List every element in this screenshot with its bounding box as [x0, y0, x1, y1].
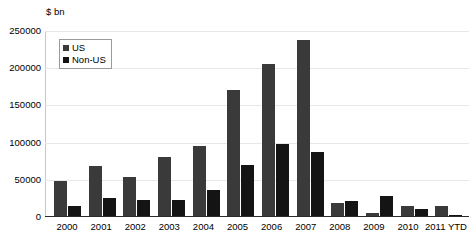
bar-non-us-2011-ytd — [449, 215, 462, 216]
x-axis-tick-label: 2010 — [391, 220, 425, 236]
bar-group — [327, 31, 362, 216]
bar-group — [223, 31, 258, 216]
bar-us-2008 — [331, 203, 344, 216]
x-axis-tick-label: 2004 — [186, 220, 220, 236]
bar-non-us-2009 — [380, 196, 393, 216]
x-axis-tick-label: 2000 — [50, 220, 84, 236]
x-axis-tick-label: 2007 — [289, 220, 323, 236]
bar-group — [119, 31, 154, 216]
bar-us-2004 — [193, 146, 206, 216]
y-axis-tick-label: 0 — [0, 212, 41, 222]
x-axis-tick-label: 2003 — [152, 220, 186, 236]
bar-group — [154, 31, 189, 216]
bar-group — [431, 31, 466, 216]
x-axis-tick-labels: 2000200120022003200420052006200720082009… — [46, 220, 470, 236]
bar-non-us-2004 — [207, 190, 220, 216]
legend-item-us: US — [63, 42, 106, 53]
bar-us-2002 — [123, 177, 136, 216]
bar-non-us-2008 — [345, 201, 358, 216]
bar-chart: $ bn 050000100000150000200000250000 2000… — [0, 0, 474, 244]
x-axis-tick-label: 2001 — [84, 220, 118, 236]
y-axis-unit-label: $ bn — [46, 6, 65, 17]
bar-group — [362, 31, 397, 216]
bar-us-2001 — [89, 166, 102, 216]
bar-group — [258, 31, 293, 216]
bar-us-2006 — [262, 64, 275, 216]
bar-us-2005 — [227, 90, 240, 216]
legend-label-non-us: Non-US — [72, 54, 106, 65]
x-axis-tick-label: 2006 — [255, 220, 289, 236]
x-axis-line — [45, 216, 469, 217]
bar-us-2011-ytd — [435, 206, 448, 216]
bar-group — [189, 31, 224, 216]
bar-non-us-2001 — [103, 198, 116, 216]
bar-group — [293, 31, 328, 216]
bar-us-2000 — [54, 181, 67, 216]
bar-group — [397, 31, 432, 216]
legend-swatch-us-icon — [63, 45, 69, 51]
x-axis-tick-label: 2009 — [357, 220, 391, 236]
x-axis-tick-label: 2005 — [220, 220, 254, 236]
bar-non-us-2007 — [311, 152, 324, 216]
x-axis-tick-label: 2008 — [323, 220, 357, 236]
chart-legend: US Non-US — [59, 39, 112, 69]
y-axis-tick-label: 50000 — [0, 175, 41, 185]
y-axis-tick-label: 150000 — [0, 100, 41, 110]
bar-non-us-2002 — [137, 200, 150, 216]
x-axis-tick-label: 2011 YTD — [425, 220, 467, 236]
x-axis-tick-label: 2002 — [118, 220, 152, 236]
bar-non-us-2010 — [415, 209, 428, 216]
bar-us-2007 — [297, 40, 310, 216]
legend-label-us: US — [72, 42, 85, 53]
bar-non-us-2005 — [241, 165, 254, 216]
bar-non-us-2000 — [68, 206, 81, 216]
legend-swatch-non-us-icon — [63, 57, 69, 63]
y-axis-tick-label: 200000 — [0, 63, 41, 73]
bar-non-us-2003 — [172, 200, 185, 216]
bar-non-us-2006 — [276, 144, 289, 216]
bar-us-2009 — [366, 213, 379, 216]
y-axis-tick-label: 250000 — [0, 26, 41, 36]
bar-us-2003 — [158, 157, 171, 216]
y-axis-tick-label: 100000 — [0, 138, 41, 148]
legend-item-non-us: Non-US — [63, 54, 106, 65]
bar-us-2010 — [401, 206, 414, 216]
